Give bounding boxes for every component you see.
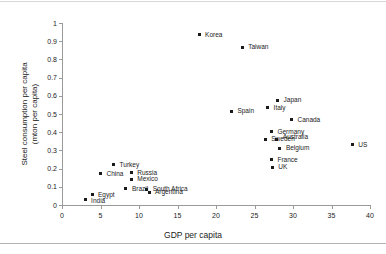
data-point-marker xyxy=(275,138,278,141)
data-point-marker xyxy=(271,166,274,169)
data-point-label: Belgium xyxy=(286,145,309,152)
data-point-marker xyxy=(198,33,201,36)
x-tick-mark xyxy=(370,206,371,209)
data-point-label: Korea xyxy=(205,32,222,39)
data-point-label: Turkey xyxy=(120,162,140,169)
x-tick-mark xyxy=(178,206,179,209)
data-point-marker xyxy=(112,163,115,166)
data-point-marker xyxy=(84,198,87,201)
x-tick-label: 25 xyxy=(243,212,267,219)
x-tick-mark xyxy=(332,206,333,209)
data-point-marker xyxy=(276,99,279,102)
data-point-marker xyxy=(351,143,354,146)
y-axis-title-line2: (mton per capita) xyxy=(30,24,40,204)
y-tick-mark xyxy=(59,78,62,79)
data-point-label: China xyxy=(107,171,124,178)
x-axis-title: GDP per capita xyxy=(0,230,386,240)
data-point-label: India xyxy=(91,198,105,205)
x-tick-label: 30 xyxy=(281,212,305,219)
x-tick-label: 20 xyxy=(204,212,228,219)
x-tick-mark xyxy=(101,206,102,209)
x-tick-label: 40 xyxy=(358,212,382,219)
y-tick-mark xyxy=(59,23,62,24)
data-point-label: Italy xyxy=(274,105,286,112)
data-point-label: Japan xyxy=(284,97,302,104)
page-bottom-rule xyxy=(0,243,386,244)
x-tick-mark xyxy=(139,206,140,209)
y-tick-mark xyxy=(59,114,62,115)
data-point-marker xyxy=(241,46,244,49)
data-point-label: Egypt xyxy=(98,192,115,199)
data-point-marker xyxy=(91,193,94,196)
data-point-marker xyxy=(148,191,151,194)
data-point-label: US xyxy=(358,142,367,149)
data-point-marker xyxy=(270,130,273,133)
x-tick-label: 5 xyxy=(89,212,113,219)
y-tick-mark xyxy=(59,41,62,42)
data-point-label: Spain xyxy=(237,108,254,115)
data-point-marker xyxy=(230,110,233,113)
data-point-label: Mexico xyxy=(137,176,158,183)
data-point-marker xyxy=(130,171,133,174)
data-point-label: Australia xyxy=(283,134,308,141)
x-tick-mark xyxy=(293,206,294,209)
y-tick-mark xyxy=(59,169,62,170)
y-axis-title: Steel consumption per capita (mton per c… xyxy=(20,24,40,204)
data-point-marker xyxy=(124,187,127,190)
data-point-marker xyxy=(270,158,273,161)
y-tick-mark xyxy=(59,150,62,151)
y-tick-mark xyxy=(59,59,62,60)
data-point-label: Taiwan xyxy=(248,44,268,51)
x-tick-mark xyxy=(62,206,63,209)
x-tick-mark xyxy=(255,206,256,209)
y-axis-title-line1: Steel consumption per capita xyxy=(20,24,30,204)
x-tick-label: 10 xyxy=(127,212,151,219)
data-point-marker xyxy=(264,138,267,141)
y-axis-line xyxy=(62,23,63,205)
data-point-marker xyxy=(99,172,102,175)
data-point-marker xyxy=(130,178,133,181)
scatter-chart-figure: 00.10.20.30.40.50.60.70.80.91 0510152025… xyxy=(0,0,386,254)
y-tick-mark xyxy=(59,96,62,97)
data-point-marker xyxy=(278,147,281,150)
x-tick-label: 35 xyxy=(320,212,344,219)
data-point-label: UK xyxy=(278,164,287,171)
data-point-label: Russia xyxy=(137,170,157,177)
y-tick-mark xyxy=(59,187,62,188)
page-top-rule xyxy=(0,1,386,2)
data-point-marker xyxy=(266,106,269,109)
x-tick-label: 15 xyxy=(166,212,190,219)
x-tick-label: 0 xyxy=(50,212,74,219)
data-point-label: Canada xyxy=(297,117,320,124)
data-point-marker xyxy=(290,118,293,121)
data-point-label: Argentina xyxy=(155,189,183,196)
x-tick-mark xyxy=(216,206,217,209)
y-tick-mark xyxy=(59,132,62,133)
